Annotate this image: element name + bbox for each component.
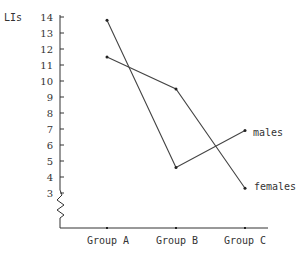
series-line-males [107, 20, 245, 167]
y-axis-label: LIs [4, 12, 22, 23]
y-tick-label: 14 [40, 12, 53, 23]
y-tick-label: 12 [40, 44, 53, 55]
x-label-group-b: Group B [156, 235, 198, 246]
data-point [244, 129, 247, 132]
y-tick-label: 7 [47, 124, 53, 135]
data-point [175, 88, 178, 91]
data-point [106, 56, 109, 59]
data-point [244, 187, 247, 190]
y-tick-label: 8 [47, 108, 53, 119]
legend-females: females [254, 181, 296, 192]
legend-males: males [253, 127, 283, 138]
data-point [175, 166, 178, 169]
y-tick-label: 6 [47, 140, 53, 151]
x-tick [175, 227, 177, 229]
y-tick-label: 11 [40, 60, 53, 71]
axes [57, 15, 268, 228]
data-point [106, 19, 109, 22]
line-chart: 34567891011121314 LIs males females Grou… [0, 0, 306, 253]
x-label-group-a: Group A [87, 235, 129, 246]
x-tick [106, 227, 108, 229]
x-label-group-c: Group C [224, 235, 266, 246]
y-tick-label: 13 [40, 28, 53, 39]
y-tick-label: 9 [47, 92, 53, 103]
y-tick-label: 3 [47, 188, 53, 199]
y-tick-label: 10 [40, 76, 53, 87]
y-tick-label: 5 [47, 156, 53, 167]
series-lines [106, 19, 247, 190]
x-tick [244, 227, 246, 229]
y-tick-label: 4 [47, 172, 53, 183]
